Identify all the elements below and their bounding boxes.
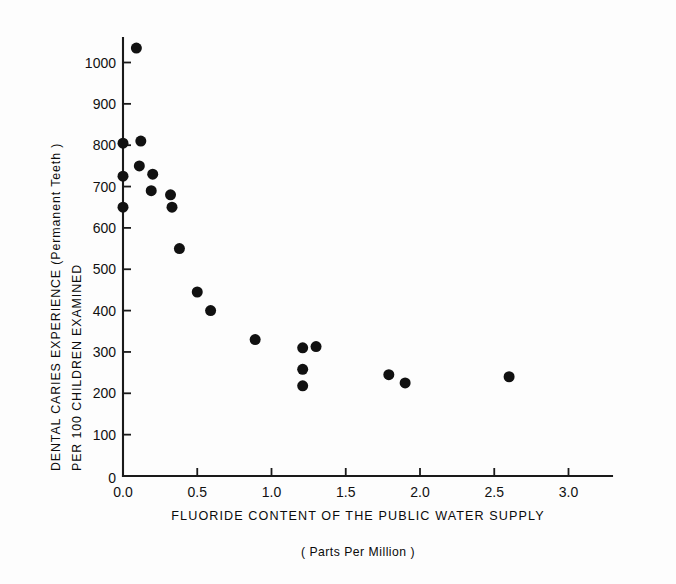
data-point — [297, 342, 308, 353]
data-point — [297, 364, 308, 375]
y-tick-label: 600 — [58, 220, 116, 236]
x-tick-label: 2.0 — [410, 484, 429, 500]
data-point — [311, 341, 322, 352]
x-tick-label: 1.0 — [262, 484, 281, 500]
x-tick-label: 3.0 — [559, 484, 578, 500]
y-axis-ticks — [123, 63, 131, 435]
y-tick-label: 0 — [88, 470, 116, 486]
y-tick-label: 500 — [58, 261, 116, 277]
data-point — [205, 305, 216, 316]
y-tick-label: 100 — [58, 427, 116, 443]
x-tick-label: 1.5 — [336, 484, 355, 500]
y-tick-label: 900 — [58, 96, 116, 112]
y-tick-label: 300 — [58, 344, 116, 360]
data-point-markers — [118, 43, 515, 392]
data-point — [192, 286, 203, 297]
data-point — [297, 380, 308, 391]
scatter-plot-figure: DENTAL CARIES EXPERIENCE (Permanent Teet… — [0, 0, 676, 584]
data-point — [118, 138, 129, 149]
data-point — [135, 136, 146, 147]
y-tick-label: 1000 — [58, 55, 116, 71]
x-tick-label: 0.5 — [188, 484, 207, 500]
data-point — [131, 43, 142, 54]
x-tick-label: 0.0 — [113, 484, 132, 500]
y-tick-label: 800 — [58, 137, 116, 153]
data-point — [167, 202, 178, 213]
data-point — [165, 189, 176, 200]
y-tick-label: 700 — [58, 179, 116, 195]
y-tick-label: 400 — [58, 303, 116, 319]
data-point — [147, 169, 158, 180]
x-tick-label: 2.5 — [485, 484, 504, 500]
data-point — [250, 334, 261, 345]
data-point — [174, 243, 185, 254]
y-tick-label: 200 — [58, 385, 116, 401]
data-point — [383, 369, 394, 380]
data-point — [134, 160, 145, 171]
x-axis-ticks — [197, 468, 568, 476]
axis-lines — [123, 38, 612, 476]
data-point — [400, 377, 411, 388]
data-point — [118, 202, 129, 213]
data-point — [504, 371, 515, 382]
data-point — [146, 185, 157, 196]
data-point — [118, 171, 129, 182]
